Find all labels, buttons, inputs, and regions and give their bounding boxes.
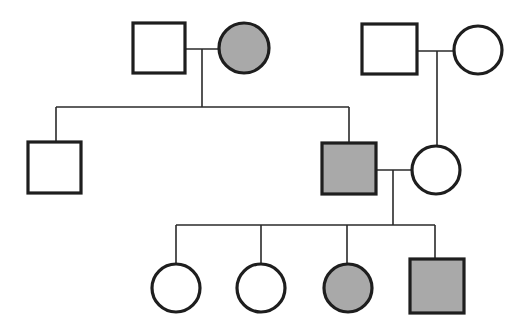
unaffected-female-circle-icon bbox=[152, 264, 200, 312]
pedigree-chart bbox=[0, 0, 519, 329]
unaffected-male-square-icon bbox=[28, 142, 81, 193]
individuals bbox=[28, 23, 502, 313]
affected-female-circle-icon bbox=[324, 264, 372, 312]
unaffected-female-circle-icon bbox=[237, 264, 285, 312]
unaffected-male-square-icon bbox=[362, 24, 417, 74]
unaffected-male-square-icon bbox=[133, 23, 185, 73]
unaffected-female-circle-icon bbox=[454, 26, 502, 74]
connector-lines bbox=[56, 49, 454, 264]
unaffected-female-circle-icon bbox=[412, 146, 460, 194]
affected-male-square-icon bbox=[322, 143, 376, 194]
affected-female-circle-icon bbox=[219, 23, 269, 73]
affected-male-square-icon bbox=[410, 259, 464, 313]
